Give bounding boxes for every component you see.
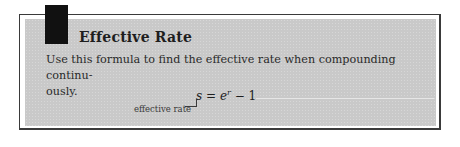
- divider-line: [256, 98, 434, 99]
- label-pointer-line: [185, 106, 197, 107]
- formula: s = er − 1: [196, 88, 256, 103]
- formula-label: effective rate: [134, 104, 191, 114]
- black-tab-marker: [45, 5, 68, 44]
- formula-rest: − 1: [235, 89, 257, 103]
- formula-equals: =: [206, 89, 216, 103]
- formula-exponent: r: [227, 88, 231, 97]
- box-title: Effective Rate: [79, 29, 192, 45]
- body-line-1: Use this formula to find the effective r…: [46, 52, 421, 84]
- formula-base: e: [220, 89, 227, 103]
